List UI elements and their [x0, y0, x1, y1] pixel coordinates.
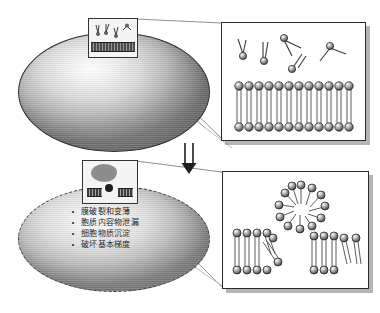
membrane-fragment-right	[310, 232, 361, 274]
list-item: • 膜破裂和变薄	[70, 207, 174, 217]
list-item-label: 膜破裂和变薄	[81, 207, 131, 217]
list-item-label: 胞质内容物泄漏	[81, 218, 139, 228]
figure-canvas: • 膜破裂和变薄 • 胞质内容物泄漏 • 细胞物质沉淀 • 破坏基本梯度	[0, 0, 380, 313]
panel-disrupted-membrane	[222, 171, 369, 289]
inset-intact-membrane	[88, 18, 138, 58]
membrane-fragment-left	[233, 229, 282, 274]
list-item: • 细胞物质沉淀	[70, 229, 174, 239]
list-item: • 破坏基本梯度	[70, 240, 174, 250]
bullet-marker: •	[70, 240, 76, 250]
intact-membrane-band	[91, 42, 135, 52]
list-item: • 胞质内容物泄漏	[70, 218, 174, 228]
bullet-marker: •	[70, 229, 76, 239]
intact-bilayer-diagram	[222, 23, 365, 140]
bullet-marker: •	[70, 218, 76, 228]
free-lipid-heads	[239, 34, 333, 72]
panel-intact-bilayer	[221, 22, 366, 141]
list-item-label: 细胞物质沉淀	[81, 229, 131, 239]
damage-effects-list: • 膜破裂和变薄 • 胞质内容物泄漏 • 细胞物质沉淀 • 破坏基本梯度	[70, 207, 174, 251]
bilayer-heads-top	[235, 82, 353, 90]
disrupted-membrane-diagram	[223, 172, 368, 288]
transition-arrow-icon	[176, 142, 202, 176]
bullet-marker: •	[70, 207, 76, 217]
list-item-label: 破坏基本梯度	[81, 240, 131, 250]
membrane-blob	[91, 164, 117, 182]
membrane-debris	[105, 184, 113, 192]
bilayer-heads-bottom	[235, 123, 353, 131]
inset-ruptured-membrane	[82, 160, 138, 204]
bilayer-tails	[237, 89, 351, 124]
micelle-cluster	[275, 181, 329, 233]
membrane-fragment-left	[87, 188, 102, 197]
membrane-fragment-right	[118, 188, 133, 197]
